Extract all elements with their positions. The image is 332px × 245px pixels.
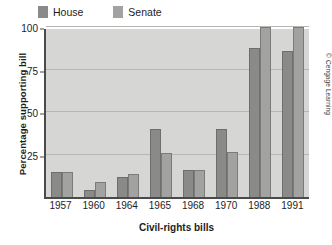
bar-house-1960[interactable] (84, 190, 95, 197)
bar-house-1991[interactable] (282, 51, 293, 197)
bar-house-1970[interactable] (216, 129, 227, 197)
bar-senate-1968[interactable] (194, 170, 205, 197)
bar-group-1960 (79, 29, 112, 197)
bar-group-1988 (243, 29, 276, 197)
x-tick-label-1960: 1960 (77, 201, 110, 217)
y-axis-title-wrapper: Percentage supporting bill (0, 29, 14, 199)
x-tick-label-1968: 1968 (177, 201, 210, 217)
bar-house-1957[interactable] (51, 172, 62, 198)
legend-item-senate: Senate (113, 6, 161, 18)
bar-house-1968[interactable] (183, 170, 194, 197)
legend-item-house: House (38, 6, 83, 18)
legend-label-senate: Senate (128, 7, 161, 18)
y-tick-label-100: 100 (21, 24, 38, 34)
y-tick-label-50: 50 (27, 109, 38, 119)
bar-group-1957 (46, 29, 79, 197)
x-tick-label-1991: 1991 (276, 201, 309, 217)
legend-swatch-senate (113, 6, 123, 18)
bar-senate-1960[interactable] (95, 182, 106, 197)
legend-swatch-house (38, 6, 48, 18)
bar-senate-1991[interactable] (293, 27, 304, 197)
x-tick-label-1965: 1965 (143, 201, 176, 217)
bar-senate-1964[interactable] (128, 174, 139, 197)
y-tick-label-75: 75 (27, 67, 38, 77)
bar-group-1965 (145, 29, 178, 197)
y-tick-label-25: 25 (27, 152, 38, 162)
x-axis-ticks: 19571960196419651968197019881991 (44, 201, 309, 217)
plot-area (44, 29, 309, 199)
legend-label-house: House (53, 7, 83, 18)
x-tick-label-1957: 1957 (44, 201, 77, 217)
bar-group-1964 (112, 29, 145, 197)
bar-senate-1988[interactable] (260, 27, 271, 197)
bar-group-1991 (276, 29, 309, 197)
chart-legend: House Senate (38, 3, 162, 21)
bar-house-1988[interactable] (249, 48, 260, 197)
bar-group-1970 (210, 29, 243, 197)
y-axis-title: Percentage supporting bill (17, 44, 28, 184)
bar-group-1968 (178, 29, 211, 197)
copyright-credit: © Cengage Learning (325, 53, 332, 115)
bar-senate-1957[interactable] (62, 172, 73, 198)
bar-house-1965[interactable] (150, 129, 161, 197)
bar-senate-1965[interactable] (161, 153, 172, 197)
bar-house-1964[interactable] (117, 177, 128, 197)
x-tick-label-1970: 1970 (210, 201, 243, 217)
bar-senate-1970[interactable] (227, 152, 238, 197)
x-tick-label-1964: 1964 (110, 201, 143, 217)
bar-groups (46, 29, 309, 197)
x-axis-title: Civil-rights bills (44, 222, 309, 233)
x-tick-label-1988: 1988 (243, 201, 276, 217)
